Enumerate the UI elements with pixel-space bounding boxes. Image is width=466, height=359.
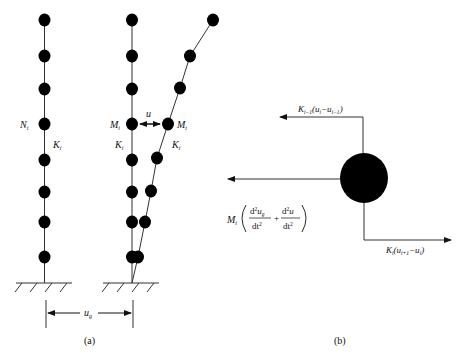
left-column-undeformed: Ni Ki [19,14,62,284]
mass-node [126,14,138,27]
mass-node [126,216,138,229]
isolated-mass [340,153,388,203]
fraction2-numerator: d2u [282,206,294,216]
undeformed-mass-label: Mi [109,119,120,131]
deformed-stiffness-label: Ki [171,139,181,151]
mass-node [39,154,51,167]
left-mass-label: Ni [19,119,29,131]
undeformed-stiffness-label: Ki [114,139,124,151]
bottom-force-label: Ki(ui+1−ui) [385,245,424,256]
relative-displacement-arrow: u [140,108,160,124]
mass-node [126,50,138,63]
ground-displacement-dimension: ug [46,300,133,328]
panel-b: Ki−1(ui−ui−1) Mi d2ug dt2 + d2u dt2 Ki(u… [226,104,451,347]
top-force-label: Ki−1(ui−ui−1) [297,104,343,115]
mass-node [39,216,51,229]
mass-node [126,186,138,199]
mass-node [39,83,51,96]
structural-dynamics-diagram: Ni Ki Mi Ki [0,0,466,359]
mass-node [39,118,51,131]
right-ground-support [102,283,159,292]
mass-node [139,216,151,229]
mass-node [207,14,219,27]
panel-b-caption: (b) [334,335,346,347]
mass-node [174,82,186,95]
mass-node [132,251,144,264]
mass-node [184,50,196,63]
mass-node [39,186,51,199]
mass-node [162,118,174,131]
right-column-deformed: Mi Ki [132,14,219,284]
mass-node [126,83,138,96]
plus-sign: + [274,213,279,223]
mass-node [126,154,138,167]
right-paren [302,205,306,232]
panel-a-caption: (a) [84,335,95,347]
mass-node [39,251,51,264]
relative-displacement-label: u [146,108,151,119]
right-column-undeformed: Mi Ki [109,14,138,284]
ground-displacement-label: ug [84,307,92,319]
left-stiffness-label: Ki [52,139,62,151]
inertia-mass-label: Mi [226,214,237,226]
top-spring-force: Ki−1(ui−ui−1) [280,104,363,153]
mass-node [151,152,163,165]
left-ground-support [15,283,72,292]
mass-node [145,185,157,198]
mass-node [39,50,51,63]
fraction1-denominator: dt2 [252,221,262,231]
fraction2-denominator: dt2 [283,221,293,231]
panel-a: Ni Ki Mi Ki [15,14,219,348]
mass-node [126,118,138,131]
inertia-force: Mi d2ug dt2 + d2u dt2 [226,179,340,232]
deformed-column-line [132,20,213,283]
left-paren [242,205,246,232]
deformed-mass-label: Mi [176,119,187,131]
mass-node [39,14,51,27]
bottom-spring-force: Ki(ui+1−ui) [364,203,451,256]
fraction1-numerator: d2ug [250,206,265,217]
